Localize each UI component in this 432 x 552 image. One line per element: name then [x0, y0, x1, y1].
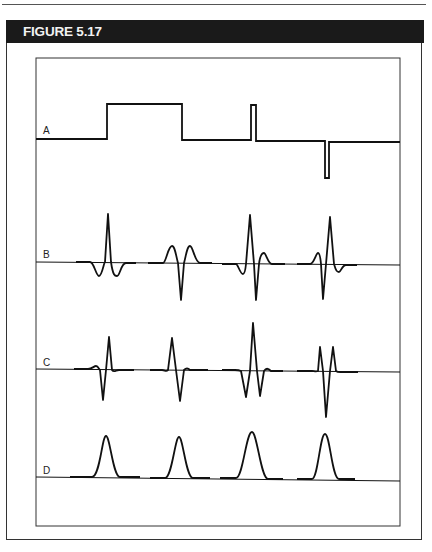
trace-b-waveform: [76, 214, 357, 300]
trace-label-a: A: [43, 125, 50, 136]
waveform-diagram: A B C D: [0, 0, 432, 552]
plot-box: [36, 58, 400, 526]
trace-a-pulse-train: [36, 104, 400, 178]
trace-label-d: D: [43, 465, 50, 476]
trace-label-b: B: [43, 249, 50, 260]
trace-label-c: C: [43, 357, 50, 368]
trace-d-gaussian: [70, 432, 355, 479]
